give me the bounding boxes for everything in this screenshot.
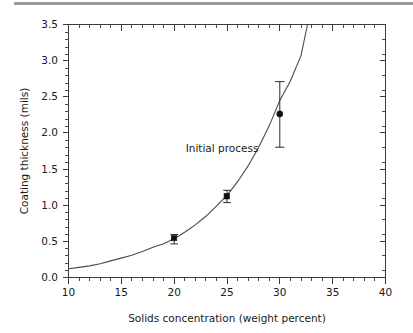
x-tick-label: 25 (220, 286, 233, 298)
x-tick-label: 10 (62, 286, 75, 298)
x-tick-label: 20 (168, 286, 181, 298)
x-tick-label: 30 (273, 286, 286, 298)
y-axis-title: Coating thickness (mils) (18, 88, 30, 215)
x-tick-label: 40 (379, 286, 392, 298)
y-tick-label: 0.5 (41, 235, 58, 247)
data-point-marker-25 (224, 193, 230, 199)
y-tick-label: 1.0 (41, 199, 58, 211)
scan-artifact-bar (14, 2, 413, 5)
y-tick-label: 2.5 (41, 90, 58, 102)
y-tick-label: 1.5 (41, 163, 58, 175)
y-tick-label: 2.0 (41, 126, 58, 138)
chart-figure: 0.0 0.5 1.0 1.5 2.0 2.5 3.0 3.5 10 15 20… (0, 0, 413, 333)
y-tick-label: 3.0 (41, 54, 58, 66)
data-point-marker-20 (171, 236, 177, 241)
x-tick-label: 15 (115, 286, 128, 298)
x-axis-title: Solids concentration (weight percent) (128, 312, 326, 324)
data-point-marker-30 (277, 111, 283, 117)
x-tick-label: 35 (326, 286, 339, 298)
y-tick-label: 3.5 (41, 18, 58, 30)
figure-background (0, 0, 413, 333)
y-tick-label: 0.0 (41, 271, 58, 283)
annotation-initial-process: Initial process (186, 142, 259, 154)
